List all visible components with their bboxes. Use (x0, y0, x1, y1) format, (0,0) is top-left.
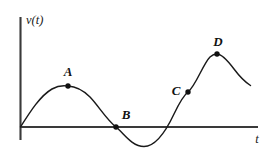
graph-canvas: A B C D v(t) t (0, 0, 274, 153)
point-marker-c (185, 89, 190, 94)
x-axis-label: t (255, 132, 259, 146)
velocity-curve (21, 54, 251, 147)
point-marker-a (65, 83, 70, 88)
point-label-d: D (212, 34, 223, 49)
point-label-b: B (121, 107, 131, 122)
y-axis-label: v(t) (26, 13, 43, 27)
point-marker-b (113, 124, 118, 129)
point-label-c: C (172, 83, 181, 98)
point-marker-d (214, 51, 219, 56)
point-label-a: A (63, 64, 73, 79)
velocity-time-graph-figure: A B C D v(t) t (0, 0, 274, 153)
